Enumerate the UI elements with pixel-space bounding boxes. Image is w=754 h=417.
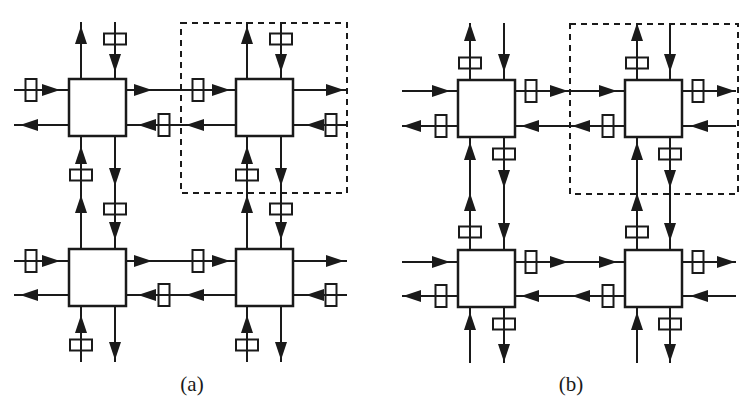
flit-buffer [659, 149, 681, 160]
arrowhead-up-icon [241, 146, 253, 164]
arrowhead-up-icon [631, 312, 643, 330]
arrowhead-up-icon [464, 193, 476, 211]
flit-buffer [104, 34, 126, 45]
flit-buffer [104, 204, 126, 215]
arrowhead-right-icon [326, 84, 344, 96]
panel-b-output-buffered-mesh [402, 23, 738, 363]
arrowhead-down-icon [275, 54, 287, 72]
arrowhead-up-icon [631, 193, 643, 211]
router-node-2 [236, 79, 293, 136]
flit-buffer [193, 79, 204, 101]
channel-horizontal-right [402, 251, 736, 273]
flit-buffer [270, 34, 292, 45]
arrowhead-up-icon [631, 142, 643, 160]
arrowhead-up-icon [75, 195, 87, 213]
arrowhead-up-icon [241, 195, 253, 213]
router-node-4 [625, 250, 682, 307]
flit-buffer [70, 170, 92, 181]
arrowhead-left-icon [690, 120, 708, 132]
flit-buffer [436, 115, 447, 137]
arrowhead-down-icon [498, 54, 510, 72]
arrowhead-down-icon [275, 342, 287, 360]
flit-buffer [626, 58, 648, 69]
arrowhead-right-icon [134, 255, 152, 267]
arrowhead-right-icon [432, 85, 450, 97]
flit-buffer [693, 80, 704, 102]
arrowhead-right-icon [717, 256, 735, 268]
arrowhead-down-icon [664, 344, 676, 362]
arrowhead-down-icon [109, 222, 121, 240]
arrowhead-down-icon [109, 54, 121, 72]
arrowhead-up-icon [464, 312, 476, 330]
flit-buffer [493, 319, 515, 330]
arrowhead-down-icon [498, 344, 510, 362]
arrowhead-right-icon [717, 85, 735, 97]
router-node-1 [69, 79, 126, 136]
arrowhead-right-icon [212, 84, 230, 96]
channel-horizontal-left [402, 285, 736, 307]
arrowhead-down-icon [275, 168, 287, 186]
arrowhead-right-icon [212, 255, 230, 267]
flit-buffer [159, 114, 170, 136]
arrowhead-left-icon [403, 290, 421, 302]
channel-vertical-up [70, 22, 92, 362]
arrowhead-left-icon [306, 119, 324, 131]
flit-buffer [70, 340, 92, 351]
arrowhead-down-icon [109, 342, 121, 360]
arrowhead-down-icon [664, 223, 676, 241]
flit-buffer [26, 79, 37, 101]
arrowhead-up-icon [631, 23, 643, 41]
arrowhead-right-icon [42, 84, 60, 96]
arrowhead-left-icon [306, 289, 324, 301]
arrowhead-down-icon [498, 170, 510, 188]
router-node-3 [458, 250, 515, 307]
arrowhead-up-icon [241, 26, 253, 44]
arrowhead-right-icon [599, 85, 617, 97]
flit-buffer [326, 284, 337, 306]
flit-buffer [159, 284, 170, 306]
panel-a-input-buffered-mesh [14, 22, 347, 362]
arrowhead-down-icon [275, 222, 287, 240]
arrowhead-down-icon [109, 168, 121, 186]
arrowhead-up-icon [75, 146, 87, 164]
channel-vertical-up [459, 23, 481, 363]
arrowhead-left-icon [138, 119, 156, 131]
arrowhead-right-icon [326, 255, 344, 267]
channel-horizontal-left [14, 284, 347, 306]
flit-buffer [459, 227, 481, 238]
arrowhead-down-icon [498, 223, 510, 241]
router-mesh-diagram [0, 0, 754, 417]
flit-buffer [193, 250, 204, 272]
arrowhead-down-icon [664, 170, 676, 188]
channel-horizontal-right [14, 250, 347, 272]
arrowhead-left-icon [521, 290, 539, 302]
flit-buffer [236, 340, 258, 351]
flit-buffer [603, 115, 614, 137]
flit-buffer [436, 285, 447, 307]
arrowhead-up-icon [75, 315, 87, 333]
flit-buffer [326, 114, 337, 136]
flit-buffer [26, 250, 37, 272]
flit-buffer [659, 319, 681, 330]
flit-buffer [526, 80, 537, 102]
arrowhead-right-icon [134, 84, 152, 96]
arrowhead-right-icon [599, 256, 617, 268]
arrowhead-right-icon [42, 255, 60, 267]
flit-buffer [236, 170, 258, 181]
flit-buffer [603, 285, 614, 307]
arrowhead-left-icon [690, 290, 708, 302]
router-node-1 [458, 80, 515, 137]
router-node-2 [625, 80, 682, 137]
arrowhead-up-icon [241, 315, 253, 333]
flit-buffer [493, 149, 515, 160]
arrowhead-left-icon [186, 119, 204, 131]
arrowhead-left-icon [20, 289, 38, 301]
arrowhead-left-icon [572, 120, 590, 132]
arrowhead-up-icon [464, 23, 476, 41]
arrowhead-left-icon [186, 289, 204, 301]
arrowhead-left-icon [521, 120, 539, 132]
flit-buffer [459, 58, 481, 69]
channel-vertical-down [493, 23, 515, 363]
router-node-3 [69, 249, 126, 306]
arrowhead-down-icon [664, 54, 676, 72]
